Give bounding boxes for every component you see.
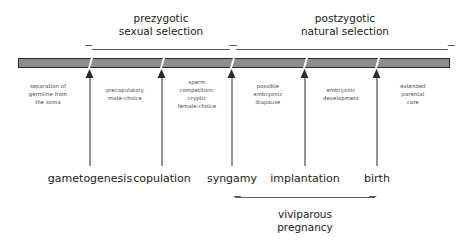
- arrow-stem-syngamy: [232, 77, 233, 166]
- group-title-postzygotic: postzygotic natural selection: [240, 12, 450, 38]
- group-bracket-prezygotic: [88, 45, 234, 52]
- timeline-notch-implantation: [303, 58, 308, 68]
- timeline-notch-syngamy: [230, 58, 235, 68]
- timeline-diagram: prezygotic sexual selectionpostzygotic n…: [0, 0, 467, 251]
- group-bracket-postzygotic: [232, 45, 452, 52]
- arrow-stem-copulation: [162, 77, 163, 166]
- timeline-notch-birth: [375, 58, 380, 68]
- arrow-stem-implantation: [305, 77, 306, 166]
- timeline-notch-copulation: [160, 58, 165, 68]
- group-title-viviparous-pregnancy: viviparous pregnancy: [231, 208, 379, 234]
- interval-caption-copulation: precopulatory mate-choice: [91, 86, 159, 102]
- interval-caption-syngamy: sperm competition; cryptic female-choice: [166, 78, 228, 110]
- timeline-notch-gametogenesis: [88, 58, 93, 68]
- group-bracket-viviparous-pregnancy: [231, 195, 379, 202]
- arrow-stem-birth: [377, 77, 378, 166]
- group-title-prezygotic: prezygotic sexual selection: [88, 12, 234, 38]
- bracket-tip-right: [369, 196, 382, 204]
- bracket-tip-right: [442, 45, 455, 53]
- bracket-line: [236, 49, 448, 50]
- stage-label-birth: birth: [317, 172, 437, 185]
- bracket-line: [92, 49, 230, 50]
- interval-caption-post-birth: extended parental care: [382, 82, 444, 106]
- interval-caption-implantation: possible embryonic diapause: [237, 82, 299, 106]
- bracket-line: [235, 197, 375, 198]
- interval-caption-gametogenesis: separation of germline from the soma: [12, 82, 84, 106]
- interval-caption-birth: embryonic development: [309, 86, 373, 102]
